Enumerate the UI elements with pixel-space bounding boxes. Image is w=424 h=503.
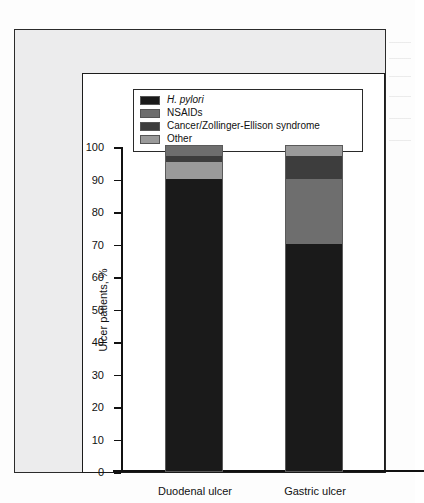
y-tick-label-80: 80 [92, 207, 104, 218]
legend-swatch-other [140, 135, 160, 144]
y-tick-label-90: 90 [92, 174, 104, 185]
x-axis-line [113, 470, 424, 472]
y-tick-70: 70 [114, 245, 121, 247]
y-tick-label-70: 70 [92, 239, 104, 250]
legend-swatch-cancer-zes [140, 122, 160, 131]
plot-inner: Ulcer patients, % 100 90 80 70 60 [121, 147, 383, 472]
y-tick-label-60: 60 [92, 272, 104, 283]
x-label-gastric-ulcer: Gastric ulcer [284, 485, 346, 497]
y-tick-80: 80 [114, 212, 121, 214]
y-tick-0: 0 [114, 472, 121, 474]
y-tick-20: 20 [114, 407, 121, 409]
y-tick-label-50: 50 [92, 304, 104, 315]
y-tick-label-30: 30 [92, 369, 104, 380]
legend-item-cancer-zes: Cancer/Zollinger-Ellison syndrome [140, 120, 356, 132]
bar-duodenal-ulcer[interactable]: Duodenal ulcer [165, 145, 223, 472]
y-tick-label-100: 100 [86, 142, 104, 153]
bar-segment-gastric-other [286, 146, 342, 156]
legend-label-h-pylori: H. pylori [167, 95, 204, 105]
y-tick-label-40: 40 [92, 337, 104, 348]
y-tick-label-10: 10 [92, 434, 104, 445]
chart-legend: H. pylori NSAIDs Cancer/Zollinger-Elliso… [133, 89, 363, 152]
y-tick-label-20: 20 [92, 402, 104, 413]
bar-segment-gastric-cancer-zes [286, 156, 342, 179]
legend-swatch-nsaids [140, 109, 160, 118]
plot-area-card: H. pylori NSAIDs Cancer/Zollinger-Elliso… [82, 73, 385, 473]
y-tick-label-0: 0 [98, 467, 104, 478]
y-tick-60: 60 [114, 277, 121, 279]
legend-item-h-pylori: H. pylori [140, 94, 356, 106]
bar-segment-duodenal-other [166, 162, 222, 178]
y-tick-40: 40 [114, 342, 121, 344]
bar-segment-duodenal-h-pylori [166, 179, 222, 472]
y-tick-50: 50 [114, 310, 121, 312]
y-tick-10: 10 [114, 440, 121, 442]
legend-label-other: Other [167, 134, 192, 144]
y-tick-30: 30 [114, 375, 121, 377]
legend-label-nsaids: NSAIDs [167, 108, 203, 118]
bar-gastric-ulcer[interactable]: Gastric ulcer [285, 145, 343, 472]
y-tick-90: 90 [114, 180, 121, 182]
y-axis-line [121, 147, 123, 472]
legend-label-cancer-zes: Cancer/Zollinger-Ellison syndrome [167, 121, 320, 131]
x-label-duodenal-ulcer: Duodenal ulcer [158, 485, 232, 497]
y-tick-100: 100 [114, 147, 121, 149]
legend-item-nsaids: NSAIDs [140, 107, 356, 119]
scan-artifact [389, 36, 411, 156]
bar-segment-gastric-h-pylori [286, 244, 342, 472]
figure-outer-frame: H. pylori NSAIDs Cancer/Zollinger-Elliso… [14, 29, 386, 473]
bar-segment-duodenal-nsaids [166, 146, 222, 156]
legend-item-other: Other [140, 133, 356, 145]
bar-segment-gastric-nsaids [286, 179, 342, 244]
legend-swatch-h-pylori [140, 96, 160, 105]
